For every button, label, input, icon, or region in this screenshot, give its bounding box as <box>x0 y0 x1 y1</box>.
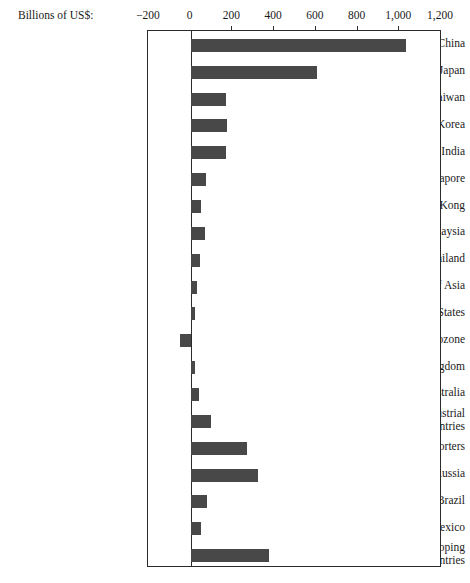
x-axis-tick-label: 400 <box>265 9 282 21</box>
x-axis-tick-label: 1,200 <box>427 9 453 21</box>
bar <box>191 388 199 401</box>
x-axis-tick-label: 600 <box>306 9 323 21</box>
bar <box>191 307 196 320</box>
bar <box>191 93 226 106</box>
bar <box>191 495 208 508</box>
bar <box>191 146 226 159</box>
x-axis-tick-label: 800 <box>348 9 365 21</box>
bar <box>191 549 269 562</box>
bar <box>191 361 196 374</box>
bar <box>191 227 205 240</box>
chart-page: Billions of US$: −20002004006008001,0001… <box>0 0 470 583</box>
bar <box>180 334 190 347</box>
bar <box>191 415 211 428</box>
plot-frame <box>147 30 441 567</box>
bar <box>191 173 207 186</box>
bar <box>191 281 197 294</box>
bar <box>191 66 317 79</box>
axis-unit-label: Billions of US$: <box>18 9 93 21</box>
x-axis-tick-label: 200 <box>223 9 240 21</box>
bar <box>191 442 247 455</box>
x-axis-tick-label: 0 <box>187 9 193 21</box>
x-axis-tick-label: 1,000 <box>385 9 411 21</box>
bar <box>191 469 259 482</box>
bar <box>191 254 200 267</box>
bar <box>191 39 406 52</box>
x-axis-tick-label: −200 <box>136 9 160 21</box>
bar <box>191 200 201 213</box>
bar <box>191 522 201 535</box>
zero-axis-line <box>191 31 192 566</box>
bar <box>191 119 227 132</box>
